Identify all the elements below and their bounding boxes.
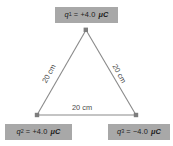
charge-subscript-q2: 2 bbox=[21, 129, 24, 134]
charge-subscript-q3: 3 bbox=[121, 129, 124, 134]
charge-value-q1: +4.0 bbox=[80, 11, 95, 18]
vertex-marker-q2 bbox=[35, 113, 39, 117]
charge-unit-q3: μC bbox=[150, 128, 161, 135]
charge-value-q2: +4.0 bbox=[32, 128, 47, 135]
charge-equals-q2: = bbox=[26, 128, 30, 135]
charge-subscript-q1: 1 bbox=[69, 12, 72, 17]
triangle-side-right bbox=[86, 30, 136, 115]
charge-triangle-diagram: q1 = +4.0 μC q2 = +4.0 μC q3 = −4.0 μC 2… bbox=[0, 0, 173, 146]
charge-label-q1: q1 = +4.0 μC bbox=[55, 7, 118, 23]
charge-equals-q1: = bbox=[74, 11, 78, 18]
charge-value-q3: −4.0 bbox=[133, 128, 148, 135]
charge-label-q3: q3 = −4.0 μC bbox=[108, 124, 170, 140]
charge-unit-q1: μC bbox=[98, 11, 109, 18]
charge-label-q2: q2 = +4.0 μC bbox=[5, 124, 72, 140]
vertex-marker-q3 bbox=[134, 113, 138, 117]
charge-unit-q2: μC bbox=[50, 128, 61, 135]
charge-equals-q3: = bbox=[126, 128, 130, 135]
vertex-marker-q1 bbox=[84, 28, 88, 32]
side-length-label-bottom: 20 cm bbox=[72, 104, 92, 111]
